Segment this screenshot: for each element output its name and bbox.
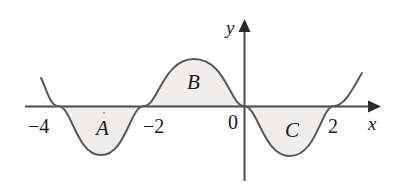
region-label-a: A bbox=[96, 118, 109, 139]
figure-canvas: −4 −2 2 0 y x A B C bbox=[0, 0, 399, 191]
graph-svg bbox=[0, 0, 399, 191]
y-axis-arrowhead bbox=[239, 19, 251, 32]
x-tick-label-neg2: −2 bbox=[143, 116, 164, 136]
x-tick-label-neg4: −4 bbox=[28, 116, 49, 136]
region-label-c: C bbox=[285, 120, 299, 141]
region-label-b: B bbox=[187, 72, 200, 93]
x-axis-label: x bbox=[368, 114, 376, 133]
print-speck bbox=[103, 112, 105, 114]
origin-label: 0 bbox=[228, 112, 238, 132]
x-tick-label-2: 2 bbox=[328, 116, 338, 136]
y-axis-label: y bbox=[226, 18, 234, 37]
x-axis-arrowhead bbox=[368, 101, 381, 113]
